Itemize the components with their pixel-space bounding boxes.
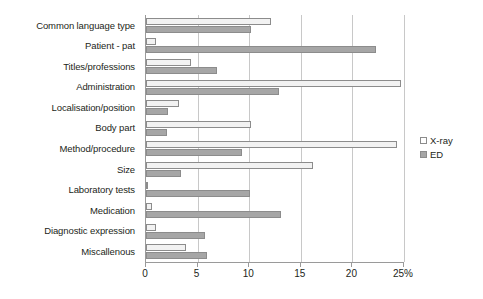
gridline <box>404 15 405 262</box>
x-tick-label: 20 <box>346 268 357 279</box>
legend-swatch-xray <box>420 137 427 144</box>
bar-rows <box>146 15 404 262</box>
category-label: Method/procedure <box>2 138 140 159</box>
bar-ed <box>146 129 167 136</box>
x-tick-label: 25% <box>393 268 413 279</box>
category-label: Localisation/position <box>2 97 140 118</box>
x-tick <box>197 263 198 267</box>
bar-ed <box>146 88 279 95</box>
bar-x-ray <box>146 244 186 251</box>
category-label: Administration <box>2 77 140 98</box>
bar-x-ray <box>146 100 179 107</box>
bar-ed <box>146 46 376 53</box>
bar-x-ray <box>146 18 271 25</box>
category-label: Miscallenous <box>2 241 140 262</box>
bar-group <box>146 15 404 36</box>
bar-group <box>146 200 404 221</box>
category-label: Laboratory tests <box>2 180 140 201</box>
legend-item[interactable]: ED <box>420 147 478 161</box>
category-label: Titles/professions <box>2 56 140 77</box>
bar-x-ray <box>146 182 148 189</box>
bar-group <box>146 97 404 118</box>
bar-group <box>146 221 404 242</box>
bar-ed <box>146 108 168 115</box>
bar-ed <box>146 149 242 156</box>
bar-group <box>146 241 404 262</box>
bar-x-ray <box>146 224 156 231</box>
legend-label: ED <box>430 149 443 160</box>
bar-x-ray <box>146 121 251 128</box>
legend-item[interactable]: X-ray <box>420 133 478 147</box>
x-tick <box>300 263 301 267</box>
x-tick <box>248 263 249 267</box>
bar-x-ray <box>146 80 401 87</box>
bar-x-ray <box>146 203 152 210</box>
chart-legend: X-rayED <box>420 133 478 161</box>
x-tick <box>403 263 404 267</box>
category-axis: Common language typePatient - patTitles/… <box>2 15 140 262</box>
bar-x-ray <box>146 162 313 169</box>
bar-group <box>146 56 404 77</box>
bar-group <box>146 180 404 201</box>
bar-group <box>146 159 404 180</box>
bar-group <box>146 36 404 57</box>
bar-chart: Common language typePatient - patTitles/… <box>0 0 483 299</box>
x-tick-label: 0 <box>142 268 148 279</box>
legend-swatch-ed <box>420 151 427 158</box>
x-tick <box>145 263 146 267</box>
x-tick <box>351 263 352 267</box>
bar-ed <box>146 190 250 197</box>
category-label: Patient - pat <box>2 36 140 57</box>
category-label: Body part <box>2 118 140 139</box>
legend-label: X-ray <box>430 135 453 146</box>
bar-ed <box>146 170 181 177</box>
category-label: Diagnostic expression <box>2 221 140 242</box>
bar-x-ray <box>146 59 191 66</box>
x-axis: 0510152025% <box>145 263 403 285</box>
x-tick-label: 10 <box>243 268 254 279</box>
bar-group <box>146 77 404 98</box>
bar-ed <box>146 26 251 33</box>
category-label: Size <box>2 159 140 180</box>
x-tick-label: 15 <box>294 268 305 279</box>
bar-group <box>146 138 404 159</box>
x-tick-label: 5 <box>194 268 200 279</box>
category-label: Common language type <box>2 15 140 36</box>
bar-ed <box>146 252 207 259</box>
bar-ed <box>146 211 281 218</box>
plot-area <box>145 15 404 263</box>
bar-x-ray <box>146 38 156 45</box>
category-label: Medication <box>2 200 140 221</box>
bar-ed <box>146 232 205 239</box>
bar-ed <box>146 67 217 74</box>
bar-group <box>146 118 404 139</box>
bar-x-ray <box>146 141 397 148</box>
